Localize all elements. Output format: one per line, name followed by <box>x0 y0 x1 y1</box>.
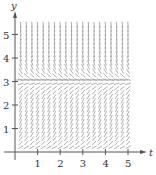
x-axis-label: t <box>149 147 154 158</box>
slope-segment <box>121 107 123 112</box>
slope-segment <box>54 111 56 116</box>
y-tick-label: 5 <box>3 30 9 41</box>
slope-segment <box>42 120 44 125</box>
slope-segment <box>121 124 123 129</box>
slope-segment <box>114 83 119 84</box>
slope-segment <box>53 132 56 136</box>
slope-segment <box>81 137 84 141</box>
slope-segment <box>41 83 46 84</box>
slope-segment <box>70 128 72 132</box>
slope-segment <box>53 103 55 108</box>
slope-segment <box>64 90 67 94</box>
slope-segment <box>104 107 106 112</box>
slope-segment <box>121 115 123 120</box>
slope-segment <box>76 99 78 103</box>
slope-segment <box>31 103 33 108</box>
slope-segment <box>70 103 72 108</box>
slope-segment <box>121 137 124 141</box>
slope-segment <box>82 124 84 129</box>
slope-segment <box>87 99 89 103</box>
slope-segment <box>109 83 114 84</box>
slope-segment <box>127 103 129 108</box>
slope-segment <box>76 128 78 132</box>
slope-segment <box>76 115 78 120</box>
slope-segment <box>30 146 34 149</box>
slope-segment <box>116 115 118 120</box>
slope-segment <box>93 120 95 125</box>
slope-segment <box>99 107 101 112</box>
slope-segments <box>18 22 130 148</box>
slope-segment <box>82 115 84 120</box>
slope-segment <box>121 132 124 136</box>
slope-segment <box>65 107 67 112</box>
slope-segment <box>47 74 51 77</box>
y-ticks: 12345 <box>3 30 18 135</box>
slope-segment <box>19 99 21 103</box>
slope-segment <box>36 132 39 136</box>
slope-segment <box>76 94 79 98</box>
slope-segment <box>42 132 45 136</box>
slope-segment <box>65 132 68 136</box>
slope-segment <box>116 99 118 103</box>
slope-segment <box>48 94 51 98</box>
slope-segment <box>87 115 89 120</box>
slope-segment <box>41 87 45 90</box>
slope-segment <box>36 128 38 132</box>
slope-segment <box>81 87 85 90</box>
slope-segment <box>120 74 124 77</box>
slope-segment <box>126 87 130 90</box>
slope-segment <box>59 128 61 132</box>
slope-segment <box>35 83 40 84</box>
slope-segment <box>42 137 45 141</box>
slope-segment <box>81 94 84 98</box>
slope-segment <box>59 90 62 94</box>
slope-segment <box>53 74 57 77</box>
slope-segment <box>127 132 130 136</box>
x-tick-label: 3 <box>80 158 86 169</box>
slope-segment <box>115 74 119 77</box>
slope-segment <box>48 103 50 108</box>
slope-segment <box>98 141 101 145</box>
slope-segment <box>25 132 28 136</box>
slope-segment <box>65 103 67 108</box>
slope-segment <box>126 141 129 145</box>
slope-segment <box>31 124 33 129</box>
slope-segment <box>110 120 112 125</box>
slope-segment <box>86 146 90 149</box>
slope-segment <box>92 141 95 145</box>
slope-segment <box>47 137 50 141</box>
slope-segment <box>53 87 57 90</box>
slope-segment <box>75 83 80 84</box>
slope-segment <box>70 124 72 129</box>
slope-segment <box>69 83 74 84</box>
slope-segment <box>104 69 107 73</box>
slope-segment <box>70 137 73 141</box>
slope-segment <box>127 69 130 73</box>
slope-segment <box>31 137 34 141</box>
slope-segment <box>115 94 118 98</box>
slope-segment <box>98 90 101 94</box>
slope-segment <box>93 69 96 73</box>
slope-segment <box>42 69 45 73</box>
slope-segment <box>37 103 39 108</box>
slope-segment <box>24 83 29 84</box>
x-axis-arrow-icon <box>140 150 147 154</box>
slope-segment <box>120 87 124 90</box>
slope-segment <box>24 87 28 90</box>
slope-segment <box>59 132 62 136</box>
slope-segment <box>19 87 23 90</box>
slope-segment <box>59 94 62 98</box>
slope-segment <box>52 83 57 84</box>
slope-segment <box>110 128 112 132</box>
slope-segment <box>42 128 44 132</box>
slope-segment <box>104 137 107 141</box>
slope-segment <box>99 115 101 120</box>
slope-segment <box>53 99 55 103</box>
slope-segment <box>104 132 107 136</box>
slope-segment <box>20 103 22 108</box>
slope-segment <box>76 107 78 112</box>
slope-segment <box>30 87 34 90</box>
slope-segment <box>31 99 33 103</box>
slope-segment <box>121 120 123 125</box>
slope-segment <box>115 90 118 94</box>
